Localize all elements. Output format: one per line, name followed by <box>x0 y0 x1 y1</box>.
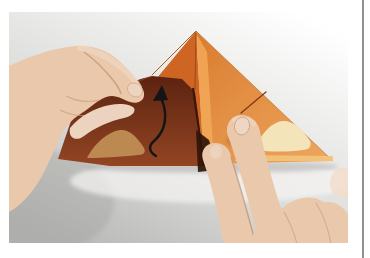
origami-step-photo <box>0 0 370 258</box>
right-thumb-knuckle <box>330 168 356 198</box>
book-page <box>0 0 370 258</box>
